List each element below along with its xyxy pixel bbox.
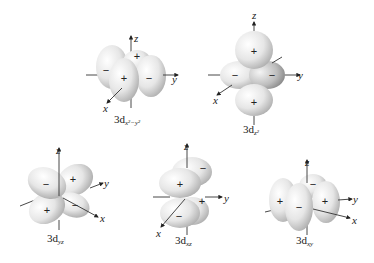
sign: − [269,69,275,81]
x-axis-back [272,57,282,63]
x-label: x [102,102,108,114]
orbital-label: 3dyz [47,232,64,246]
z-label: z [183,140,189,152]
sign: + [44,204,50,216]
orbital-label: 3dxy [296,234,314,248]
sign: + [121,72,127,84]
y-label: y [297,69,303,81]
z-label: z [55,144,61,156]
sign: − [43,178,49,190]
z-label: z [251,9,257,21]
orbital-3d-x2-y2: + − + − z y x 3dx²−y² [86,32,178,127]
y-label: y [223,192,229,204]
sign: − [146,72,152,84]
sign: − [310,178,316,190]
sign: − [176,210,182,222]
sign: − [103,64,109,76]
y-label: y [352,193,358,205]
y-label: y [171,73,177,85]
x-axis [217,85,232,95]
x-label: x [99,212,105,224]
orbital-label: 3dz² [243,123,260,137]
orbital-3d-xz: + − + − z y x 3dxz [153,140,229,248]
y-label: y [103,177,109,189]
sign: − [232,69,238,81]
sign: + [70,173,76,185]
z-label: z [304,156,310,168]
sign: + [134,50,140,62]
orbital-3d-xy: + − − + z y x 3dxy [265,156,358,248]
sign: − [72,199,78,211]
sign: + [277,195,283,207]
orbital-3d-z2: + − − + z y x 3dz² [208,9,303,137]
sign: + [177,178,183,190]
orbital-3d-yz: − + + − z y x 3dyz [20,144,109,246]
orbital-label: 3dx²−y² [114,113,141,127]
sign: − [296,201,302,213]
sign: + [199,195,205,207]
z-label: z [133,32,139,44]
orbital-diagram: + − + − z y x 3dx²−y² + − − + z y x 3dz² [0,0,374,263]
x-label: x [155,227,161,239]
y-axis [338,199,352,200]
orbital-label: 3dxz [175,234,192,248]
sign: + [251,45,257,57]
sign: + [251,96,257,108]
x-label: x [351,214,357,226]
sign: + [322,195,328,207]
sign: − [200,162,206,174]
x-label: x [212,94,218,106]
y-axis [90,183,103,188]
